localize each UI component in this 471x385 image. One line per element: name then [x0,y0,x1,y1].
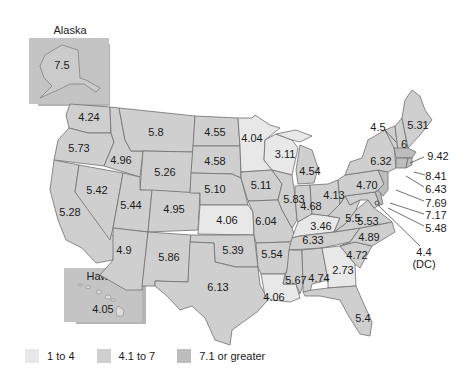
legend-item-mid: 4.1 to 7 [97,349,156,363]
label-nm: 5.86 [158,251,179,263]
alaska-inset: Alaska 7.5 [29,24,110,106]
callout-ri: 8.41 [425,170,446,182]
callout-de: 7.17 [425,209,446,221]
legend-label-low: 1 to 4 [47,350,75,362]
legend-item-low: 1 to 4 [25,349,75,363]
label-oh: 4.13 [323,189,344,201]
label-sc: 4.72 [346,249,367,261]
callout-nj: 7.69 [425,197,446,209]
alaska-title: Alaska [53,24,87,36]
label-sd: 4.58 [204,155,225,167]
state-fl[interactable] [303,286,372,336]
label-ia: 5.11 [251,179,272,191]
hawaii-value: 4.05 [92,303,113,315]
us-choropleth-map: Alaska 7.5 Hawaii 4.05 [0,0,471,385]
label-mi: 4.54 [299,165,320,177]
label-co: 4.95 [163,203,184,215]
legend: 1 to 4 4.1 to 7 7.1 or greater [25,349,287,363]
callout-ma: 9.42 [427,150,448,162]
label-wy: 5.26 [154,166,175,178]
label-ga: 2.73 [332,264,353,276]
legend-label-mid: 4.1 to 7 [119,350,156,362]
label-ky: 3.46 [310,220,331,232]
legend-swatch-low [25,349,39,363]
callout-dc: 4.4 [416,246,431,258]
callout-dc-label: (DC) [412,258,435,270]
legend-label-high: 7.1 or greater [199,350,265,362]
label-pa: 4.70 [356,179,377,191]
alaska-value: 7.5 [54,59,69,71]
label-va: 5.53 [357,215,378,227]
label-or: 5.73 [68,142,89,154]
label-ut: 5.44 [120,199,141,211]
label-nd: 4.55 [204,126,225,138]
label-nv: 5.42 [86,184,107,196]
label-la: 4.06 [263,291,284,303]
label-wi: 3.11 [275,148,296,160]
label-mt: 5.8 [148,126,163,138]
label-me: 5.31 [407,119,428,131]
legend-swatch-mid [97,349,111,363]
label-ks: 4.06 [216,214,237,226]
callout-md: 5.48 [425,222,446,234]
label-mo: 6.04 [255,215,276,227]
callout-vt: 4.5 [370,121,385,133]
label-az: 4.9 [116,244,131,256]
label-ar: 5.54 [261,248,282,260]
label-ny: 6.32 [370,155,391,167]
label-nh: 6 [401,138,407,150]
label-id: 4.96 [110,154,131,166]
label-ca: 5.28 [59,206,80,218]
callout-ct: 6.43 [425,183,446,195]
legend-swatch-high [177,349,191,363]
label-ms: 5.67 [285,274,306,286]
label-mn: 4.04 [241,132,262,144]
label-ne: 5.10 [204,183,225,195]
label-nc: 4.89 [358,231,379,243]
label-fl: 5.4 [355,312,370,324]
label-in: 4.68 [300,200,321,212]
label-tn: 6.33 [302,234,323,246]
legend-item-high: 7.1 or greater [177,349,265,363]
label-wa: 4.24 [78,111,99,123]
label-ok: 5.39 [222,244,243,256]
label-tx: 6.13 [207,281,228,293]
label-al: 4.74 [308,272,329,284]
